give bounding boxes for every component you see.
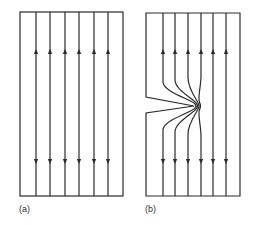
- arrow-down-icon: [186, 159, 190, 164]
- panel-a: [20, 12, 123, 196]
- arrow-up-icon: [199, 49, 203, 54]
- force-line-b: [163, 13, 196, 196]
- panel-label-b: (b): [145, 204, 156, 214]
- arrow-up-icon: [173, 49, 177, 54]
- arrow-down-icon: [63, 159, 67, 164]
- arrow-up-icon: [63, 49, 67, 54]
- arrow-down-icon: [211, 159, 215, 164]
- arrow-up-icon: [34, 49, 38, 54]
- arrow-down-icon: [34, 159, 38, 164]
- arrow-down-icon: [77, 159, 81, 164]
- arrow-up-icon: [92, 49, 96, 54]
- panel-label-a: (a): [19, 204, 30, 214]
- arrow-down-icon: [224, 159, 228, 164]
- arrow-down-icon: [48, 159, 52, 164]
- arrow-up-icon: [161, 49, 165, 54]
- arrow-down-icon: [106, 159, 110, 164]
- panel-b: [146, 13, 240, 196]
- arrow-up-icon: [77, 49, 81, 54]
- arrow-down-icon: [161, 159, 165, 164]
- arrow-down-icon: [199, 159, 203, 164]
- arrow-down-icon: [92, 159, 96, 164]
- arrow-up-icon: [186, 49, 190, 54]
- arrow-up-icon: [211, 49, 215, 54]
- stress-flow-diagram: [0, 0, 258, 225]
- arrow-up-icon: [106, 49, 110, 54]
- arrow-up-icon: [48, 49, 52, 54]
- arrow-up-icon: [224, 49, 228, 54]
- arrow-down-icon: [173, 159, 177, 164]
